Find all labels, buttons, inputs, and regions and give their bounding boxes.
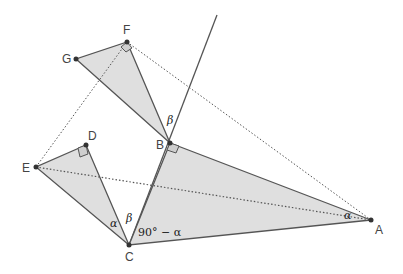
triangle-cde — [36, 145, 129, 245]
angle-alpha-c: α — [110, 217, 118, 230]
angle-beta-b: β — [166, 114, 173, 127]
point-b — [168, 141, 173, 146]
label-a: A — [375, 223, 383, 237]
label-b: B — [156, 138, 164, 152]
angle-c-complement: 90° − α — [138, 226, 182, 239]
point-e — [34, 165, 39, 170]
label-e: E — [22, 161, 30, 175]
label-c: C — [125, 250, 134, 264]
angle-beta-c: β — [125, 212, 132, 225]
point-f — [125, 40, 130, 45]
angle-alpha-a: α — [344, 209, 352, 222]
point-g — [74, 57, 79, 62]
point-c — [127, 243, 132, 248]
point-a — [369, 218, 374, 223]
point-d — [84, 143, 89, 148]
label-d: D — [88, 129, 97, 143]
geometry-diagram: A B C D E F G α α β β 90° − α — [0, 0, 403, 274]
label-g: G — [62, 52, 71, 66]
label-f: F — [123, 23, 130, 37]
